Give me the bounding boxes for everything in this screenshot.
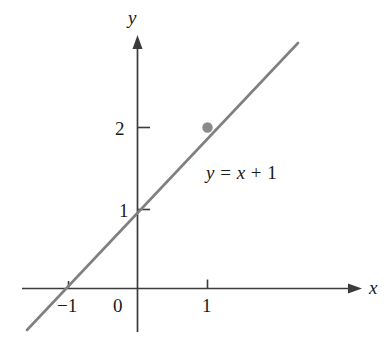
line-y-equals-x-plus-1 (27, 43, 298, 330)
x-tick-label-1: 1 (202, 296, 212, 315)
x-axis-label: x (369, 278, 377, 297)
graph-figure: y x 2 1 −1 1 0 y = x + 1 (0, 0, 389, 337)
x-tick-label-minus-1: −1 (57, 296, 77, 315)
equation-lhs: y (206, 162, 215, 183)
equation-equals-sign: = (220, 162, 231, 183)
x-axis-arrowhead (348, 284, 362, 294)
equation-rhs-variable: x (237, 162, 246, 183)
coordinate-plane-svg (0, 0, 389, 337)
y-tick-label-2: 2 (115, 119, 125, 138)
y-axis-arrowhead (133, 35, 143, 49)
equation-annotation: y = x + 1 (206, 163, 277, 182)
y-axis-label: y (128, 8, 136, 27)
y-axis (133, 35, 143, 332)
y-tick-label-1: 1 (119, 201, 129, 220)
data-point-marker (202, 122, 212, 132)
equation-constant: 1 (267, 162, 277, 183)
x-axis (22, 284, 362, 294)
origin-label: 0 (113, 296, 123, 315)
equation-plus-sign: + (251, 162, 262, 183)
